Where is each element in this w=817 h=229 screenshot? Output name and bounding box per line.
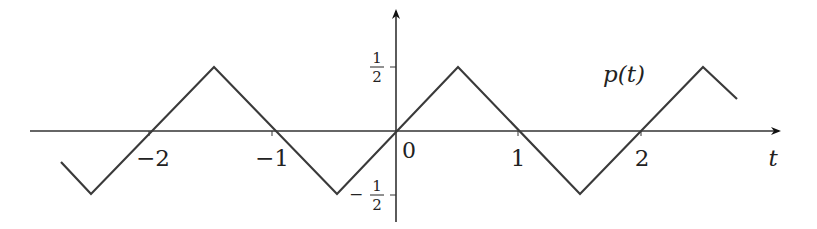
x-tick-label-1: 1 bbox=[511, 145, 526, 171]
x-tick-label-minus-2: −2 bbox=[136, 145, 170, 171]
function-label: p(t) bbox=[603, 61, 645, 87]
svg-text:2: 2 bbox=[372, 68, 382, 86]
origin-label: 0 bbox=[402, 138, 416, 163]
x-tick-label-minus-1: −1 bbox=[255, 145, 289, 171]
svg-text:1: 1 bbox=[372, 177, 382, 195]
x-tick-label-2: 2 bbox=[635, 145, 650, 171]
x-axis-label: t bbox=[768, 145, 778, 171]
svg-text:−: − bbox=[349, 184, 363, 204]
y-tick-label-half: 1 2 bbox=[370, 49, 384, 86]
y-tick-label-neg-half: − 1 2 bbox=[349, 177, 384, 214]
svg-text:2: 2 bbox=[372, 196, 382, 214]
svg-text:1: 1 bbox=[372, 49, 382, 67]
triangle-wave-diagram: −2 −1 0 1 2 t 1 2 − 1 2 p(t) bbox=[0, 0, 817, 229]
